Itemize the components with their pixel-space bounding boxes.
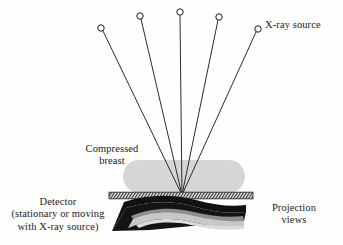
xray-source-marker-group bbox=[98, 9, 261, 32]
label-xray-source-text: X-ray source bbox=[265, 19, 321, 30]
xray-source-marker-2[interactable] bbox=[137, 13, 143, 19]
projection-views-shape bbox=[112, 196, 246, 231]
label-xray-source: X-ray source bbox=[265, 19, 321, 31]
label-detector: Detector (stationary or moving with X-ra… bbox=[2, 196, 114, 233]
label-detector-line1: Detector bbox=[2, 196, 114, 208]
label-compressed-breast-line2: breast bbox=[66, 155, 158, 167]
label-detector-line2: (stationary or moving bbox=[2, 208, 114, 220]
figure-canvas: X-ray source Compressed breast Detector … bbox=[0, 0, 343, 245]
label-projection-views-line2: views bbox=[256, 214, 332, 226]
label-compressed-breast: Compressed breast bbox=[66, 143, 158, 168]
label-detector-line3: with X-ray source) bbox=[2, 221, 114, 233]
xray-source-marker-1[interactable] bbox=[98, 25, 104, 31]
xray-source-marker-3[interactable] bbox=[177, 9, 183, 15]
label-compressed-breast-line1: Compressed bbox=[66, 143, 158, 155]
label-projection-views-line1: Projection bbox=[256, 202, 332, 214]
label-projection-views: Projection views bbox=[256, 202, 332, 227]
xray-source-marker-5[interactable] bbox=[255, 26, 261, 32]
xray-source-marker-4[interactable] bbox=[216, 14, 222, 20]
